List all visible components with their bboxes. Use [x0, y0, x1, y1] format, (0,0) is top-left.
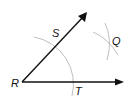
- angle-construction-diagram: R S T Q: [0, 0, 134, 98]
- point-label-R: R: [11, 77, 19, 89]
- arc-centered-R: [34, 37, 73, 96]
- point-label-S: S: [52, 27, 60, 39]
- point-label-T: T: [75, 85, 83, 97]
- arrowhead-RT: [115, 79, 124, 86]
- point-label-Q: Q: [112, 35, 121, 47]
